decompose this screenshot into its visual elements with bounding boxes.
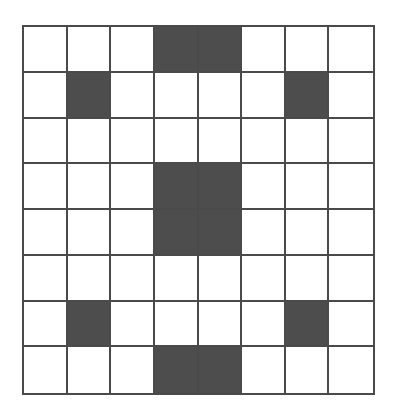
grid-cell-filled: [199, 164, 243, 210]
grid-cell-empty: [111, 73, 155, 119]
grid-cell-empty: [111, 302, 155, 348]
grid-cell-empty: [329, 73, 373, 119]
grid-cell-empty: [24, 302, 68, 348]
grid-cell-filled: [68, 302, 112, 348]
grid-cell-empty: [242, 73, 286, 119]
grid-cell-empty: [329, 347, 373, 393]
grid-cell-filled: [199, 347, 243, 393]
grid-cell-empty: [24, 210, 68, 256]
grid-cell-empty: [111, 164, 155, 210]
grid-cell-empty: [242, 256, 286, 302]
grid-cell-empty: [24, 347, 68, 393]
grid-cell-empty: [68, 27, 112, 73]
grid-cell-empty: [155, 256, 199, 302]
grid-cell-empty: [242, 302, 286, 348]
grid-cell-empty: [329, 302, 373, 348]
grid-cell-filled: [155, 347, 199, 393]
grid-cell-filled: [155, 164, 199, 210]
grid-cell-empty: [242, 27, 286, 73]
grid-cell-empty: [329, 27, 373, 73]
grid-cell-empty: [24, 119, 68, 165]
grid-cell-empty: [199, 302, 243, 348]
grid-cell-empty: [111, 256, 155, 302]
grid-cell-empty: [111, 347, 155, 393]
grid-cell-empty: [329, 164, 373, 210]
grid-cell-empty: [155, 73, 199, 119]
grid-cell-empty: [329, 256, 373, 302]
grid-cell-empty: [68, 347, 112, 393]
grid-cell-empty: [286, 27, 330, 73]
grid-cell-empty: [68, 210, 112, 256]
grid-cell-filled: [155, 27, 199, 73]
grid-cell-empty: [24, 164, 68, 210]
grid-cell-empty: [329, 119, 373, 165]
grid-cell-filled: [199, 210, 243, 256]
grid-cell-empty: [111, 210, 155, 256]
pattern-grid: [22, 25, 375, 395]
grid-cell-filled: [286, 73, 330, 119]
grid-cell-empty: [24, 73, 68, 119]
grid-cell-empty: [242, 164, 286, 210]
grid-cell-filled: [155, 210, 199, 256]
grid-cell-empty: [199, 119, 243, 165]
grid-cell-empty: [68, 256, 112, 302]
grid-cell-empty: [155, 119, 199, 165]
grid-cell-empty: [286, 210, 330, 256]
grid-cell-filled: [68, 73, 112, 119]
grid-cell-empty: [242, 347, 286, 393]
grid-cell-empty: [111, 27, 155, 73]
grid-cell-empty: [199, 73, 243, 119]
grid-cell-empty: [68, 164, 112, 210]
grid-cell-empty: [286, 164, 330, 210]
grid-cell-empty: [24, 27, 68, 73]
grid-cell-empty: [24, 256, 68, 302]
grid-cell-empty: [155, 302, 199, 348]
grid-cell-empty: [286, 347, 330, 393]
grid-cell-empty: [68, 119, 112, 165]
grid-cell-empty: [242, 210, 286, 256]
grid-cell-empty: [286, 256, 330, 302]
grid-cell-empty: [111, 119, 155, 165]
grid-cell-filled: [199, 27, 243, 73]
grid-cell-empty: [199, 256, 243, 302]
grid-cell-empty: [286, 119, 330, 165]
grid-cell-filled: [286, 302, 330, 348]
grid-cell-empty: [242, 119, 286, 165]
grid-cell-empty: [329, 210, 373, 256]
